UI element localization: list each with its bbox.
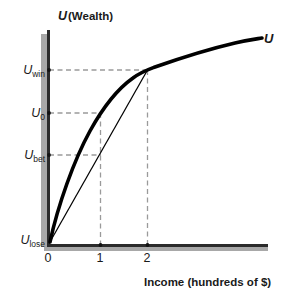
y-tick-subscript: 0 — [40, 111, 45, 121]
x-axis-title: Income (hundreds of $) — [144, 277, 271, 289]
x-tick-label-0: 0 — [45, 252, 52, 265]
x-tick-label-2: 2 — [144, 252, 151, 265]
curve-name-label: U — [264, 32, 273, 45]
tick-dot-u0 — [47, 111, 51, 115]
y-tick-label-u-win: Uwin — [23, 64, 45, 77]
y-tick-base: U — [23, 63, 32, 77]
y-axis-title-rest: (Wealth) — [68, 10, 113, 22]
y-tick-label-u-zero: U0 — [31, 107, 45, 120]
y-tick-base: U — [20, 233, 29, 247]
y-tick-label-u-lose: Ulose — [20, 234, 45, 247]
y-tick-subscript: lose — [29, 238, 45, 248]
y-tick-base: U — [24, 148, 33, 162]
y-axis-title: U(Wealth) — [58, 10, 113, 23]
utility-of-wealth-chart: U(Wealth) Income (hundreds of $) U Uwin … — [0, 0, 288, 298]
tick-dot-income-2 — [146, 243, 150, 247]
y-axis-title-symbol: U — [58, 9, 68, 23]
tick-dot-income-1 — [99, 243, 103, 247]
utility-curve — [50, 38, 262, 242]
y-tick-label-u-bet: Ubet — [24, 149, 45, 162]
tick-dot-ubet — [47, 153, 51, 157]
y-tick-base: U — [31, 106, 40, 120]
tick-dot-uwin — [47, 68, 51, 72]
y-tick-subscript: bet — [33, 153, 45, 163]
y-tick-subscript: win — [32, 68, 45, 78]
x-tick-label-1: 1 — [97, 252, 104, 265]
chord-line — [51, 70, 148, 241]
